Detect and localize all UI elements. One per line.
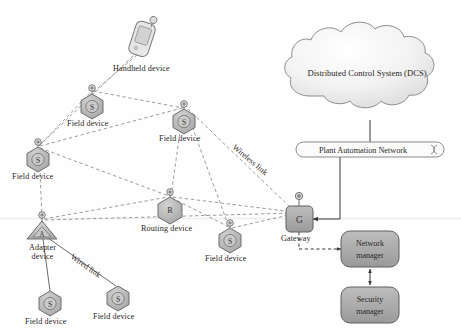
routing-glyph: R: [167, 206, 173, 215]
adapter-glyph: A: [39, 230, 45, 239]
link-fieldleft-routing: [40, 148, 169, 196]
fieldmid-glyph: S: [182, 118, 186, 127]
fieldright-antenna-dot-icon: [229, 222, 232, 225]
link-fieldmid-gateway: [188, 109, 294, 211]
node-security-manager[interactable]: Security manager: [341, 287, 399, 323]
label-field-device-mid: Field device: [159, 134, 200, 143]
fieldleft-glyph: S: [36, 156, 40, 165]
label-handheld-device: Handheld device: [113, 64, 170, 73]
plant-automation-network-bar[interactable]: Plant Automation Network: [296, 142, 444, 157]
link-adapter-routing: [44, 197, 168, 219]
label-gateway: Gateway: [281, 234, 311, 243]
adapter-antenna-dot-icon: [41, 214, 44, 217]
fieldright-glyph: S: [228, 237, 232, 246]
security-manager-label-line1: Security: [357, 295, 384, 304]
label-adapter-device: Adapter device: [20, 243, 65, 262]
wireless-link-label: Wireless link: [231, 143, 270, 178]
label-field-device-top: Field device: [67, 119, 108, 128]
label-field-device-bottom-left: Field device: [25, 317, 66, 326]
routing-antenna-dot-icon: [169, 191, 172, 194]
node-field-device-left[interactable]: S: [27, 139, 49, 172]
cloud-shape: [285, 22, 434, 108]
fieldmid-antenna-dot-icon: [183, 103, 186, 106]
node-adapter-device[interactable]: A: [27, 212, 57, 239]
fieldleft-antenna-dot-icon: [37, 141, 40, 144]
node-network-manager[interactable]: Network manager: [341, 231, 399, 267]
gateway-antenna-dot-icon: [298, 195, 301, 198]
network-manager-box: [341, 231, 399, 267]
bar-label: Plant Automation Network: [319, 146, 408, 155]
label-field-device-left: Field device: [12, 172, 53, 181]
network-manager-label-line1: Network: [356, 239, 384, 248]
network-diagram: Distributed Control System (DCS) Plant A…: [0, 0, 461, 334]
security-manager-box: [341, 287, 399, 323]
fieldtop-antenna-dot-icon: [91, 87, 94, 90]
node-handheld-device[interactable]: [127, 12, 159, 58]
label-routing-device: Routing device: [141, 224, 192, 233]
diagram-canvas: Distributed Control System (DCS) Plant A…: [0, 0, 461, 334]
link-fieldtop-fieldmid: [93, 91, 183, 108]
backbone-links: [313, 120, 370, 219]
node-field-device-bottom-left[interactable]: S: [39, 291, 61, 316]
gateway-glyph: G: [296, 215, 303, 225]
fieldbm-glyph: S: [116, 295, 120, 304]
link-fieldright-gateway: [232, 214, 293, 228]
network-manager-label-line2: manager: [356, 251, 384, 260]
cloud-label: Distributed Control System (DCS): [307, 68, 426, 78]
node-field-device-top[interactable]: S: [81, 85, 103, 119]
node-gateway[interactable]: G: [286, 192, 313, 232]
handheld-antenna-icon: [149, 16, 158, 25]
link-routing-gateway: [173, 197, 293, 212]
dcs-cloud[interactable]: Distributed Control System (DCS): [285, 22, 434, 108]
node-field-device-mid[interactable]: S: [173, 101, 195, 134]
wired-link-label: Wired link: [69, 252, 104, 280]
node-field-device-right[interactable]: S: [219, 220, 241, 253]
label-field-device-bottom-mid: Field device: [93, 312, 134, 321]
label-field-device-right: Field device: [205, 254, 246, 263]
node-routing-device[interactable]: R: [158, 189, 182, 224]
fieldtop-glyph: S: [90, 103, 94, 112]
security-manager-label-line2: manager: [356, 307, 384, 316]
node-field-device-bottom-mid[interactable]: S: [107, 286, 129, 311]
fieldbl-glyph: S: [48, 300, 52, 309]
